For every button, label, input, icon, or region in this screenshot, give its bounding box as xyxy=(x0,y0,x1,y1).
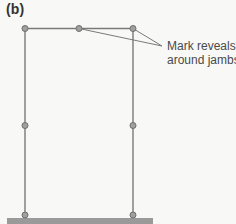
callout-line-2: around jambs xyxy=(167,53,236,67)
floor-bar xyxy=(7,218,153,224)
callout-line-1: Mark reveals xyxy=(167,39,236,53)
node-head-left xyxy=(22,26,28,32)
node-head-mid xyxy=(76,26,82,32)
leader-line-mid xyxy=(79,29,162,47)
door-frame-diagram xyxy=(0,0,236,224)
node-right-jamb-mid xyxy=(130,123,136,129)
node-right-jamb-bottom xyxy=(130,212,136,218)
node-left-jamb-mid xyxy=(22,123,28,129)
reveal-marks xyxy=(22,26,136,219)
node-head-right xyxy=(130,26,136,32)
node-left-jamb-bottom xyxy=(22,212,28,218)
callout-label: Mark reveals around jambs xyxy=(167,39,236,67)
